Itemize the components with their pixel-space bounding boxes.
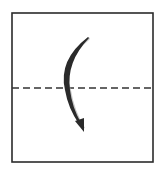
origami-diagram <box>0 0 164 172</box>
